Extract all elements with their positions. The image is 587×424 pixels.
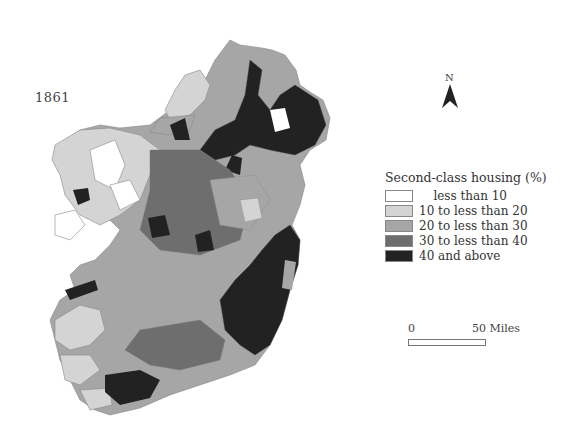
legend-item: 10 to less than 20 bbox=[385, 203, 547, 218]
scale-start-label: 0 bbox=[408, 322, 415, 335]
legend-label: 30 to less than 40 bbox=[419, 234, 528, 248]
north-arrow: N bbox=[440, 72, 460, 108]
legend-label: 40 and above bbox=[419, 249, 500, 263]
legend: Second-class housing (%) less than 10 10… bbox=[385, 170, 547, 263]
scale-bar: 0 50 Miles bbox=[408, 322, 518, 346]
legend-swatch-black bbox=[385, 250, 413, 262]
legend-label: 20 to less than 30 bbox=[419, 219, 528, 233]
legend-item: less than 10 bbox=[385, 188, 547, 203]
scale-bar-graphic bbox=[408, 339, 486, 346]
legend-swatch-mid-grey bbox=[385, 220, 413, 232]
legend-item: 40 and above bbox=[385, 248, 547, 263]
map-year-label: 1861 bbox=[35, 90, 70, 105]
legend-label: less than 10 bbox=[419, 189, 507, 203]
legend-swatch-light-grey bbox=[385, 205, 413, 217]
legend-item: 20 to less than 30 bbox=[385, 218, 547, 233]
legend-label: 10 to less than 20 bbox=[419, 204, 528, 218]
legend-swatch-dark-grey bbox=[385, 235, 413, 247]
north-arrow-icon bbox=[440, 84, 460, 110]
legend-item: 30 to less than 40 bbox=[385, 233, 547, 248]
legend-swatch-white bbox=[385, 190, 413, 202]
legend-title: Second-class housing (%) bbox=[385, 170, 547, 185]
north-label: N bbox=[445, 72, 454, 83]
scale-end-label: 50 Miles bbox=[472, 322, 520, 335]
